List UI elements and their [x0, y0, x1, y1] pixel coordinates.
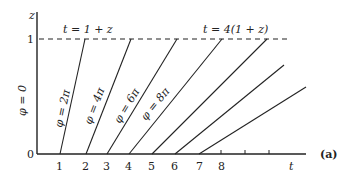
t-tick-label: 7: [196, 160, 203, 173]
t-axis-label: t: [289, 160, 294, 173]
boundary-label-left: t = 1 + z: [63, 23, 113, 36]
t-tick-label: 2: [82, 160, 89, 173]
t-tick-label: 8: [218, 160, 225, 173]
z-tick-label: 1: [27, 33, 34, 46]
panel-label: (a): [320, 148, 338, 161]
phase-label-4pi: φ = 4π: [82, 85, 108, 126]
phase-line-8pi: [129, 39, 222, 154]
t-tick-label: 1: [56, 160, 63, 173]
phase-label-6pi: φ = 6π: [111, 85, 142, 125]
t-tick-label: 5: [148, 160, 155, 173]
phase-line-7: [199, 87, 306, 154]
phi-zero-label: φ = 0: [16, 85, 29, 116]
t-tick-label: 4: [125, 160, 132, 173]
phase-line-6: [175, 65, 284, 154]
phase-label-8pi: φ = 8π: [138, 84, 173, 122]
boundary-label-right: t = 4(1 + z): [203, 23, 268, 36]
origin-label: 0: [27, 148, 34, 161]
z-axis-label: z: [28, 9, 35, 22]
t-tick-label: 6: [171, 160, 178, 173]
phase-diagram: z 1 0 t 1 2 3 4 5 6 7 8 t = 1 + z t = 4(…: [0, 0, 350, 177]
t-tick-label: 3: [103, 160, 110, 173]
